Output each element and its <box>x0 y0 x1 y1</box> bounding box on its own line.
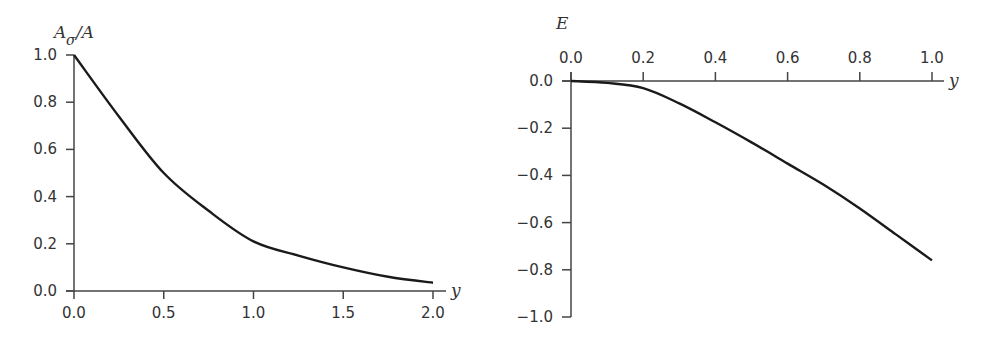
y-tick-label: 0.2 <box>33 235 57 253</box>
y-tick-label: 0.8 <box>33 93 57 111</box>
left-x-axis-title: y <box>450 280 461 300</box>
figure: A σ /A 0.00.20.40.60.81.0 0.00.51.01.52.… <box>0 0 984 346</box>
x-tick-label: 0.0 <box>559 49 583 67</box>
y-tick-label: −0.2 <box>517 119 553 137</box>
y-tick-label: −0.8 <box>517 261 553 279</box>
left-y-ticks: 0.00.20.40.60.81.0 <box>33 46 74 300</box>
x-tick-label: 1.0 <box>920 49 944 67</box>
y-tick-label: 1.0 <box>33 46 57 64</box>
x-tick-label: 2.0 <box>421 304 445 322</box>
y-tick-label: 0.6 <box>33 140 57 158</box>
x-tick-label: 0.8 <box>848 49 872 67</box>
y-title-sub: σ <box>66 32 76 48</box>
y-tick-label: −0.4 <box>517 166 553 184</box>
right-y-axis-title: E <box>555 13 569 33</box>
y-tick-label: −1.0 <box>517 308 553 326</box>
left-x-ticks: 0.00.51.01.52.0 <box>62 291 445 322</box>
right-chart: E 0.0−0.2−0.4−0.6−0.8−1.0 0.00.20.40.60.… <box>517 13 959 326</box>
y-title-main: A <box>52 22 66 42</box>
y-title-tail: /A <box>74 22 94 42</box>
left-y-axis-title: A σ /A <box>52 22 94 48</box>
y-tick-label: 0.0 <box>33 282 57 300</box>
x-tick-label: 1.0 <box>242 304 266 322</box>
x-tick-label: 0.0 <box>62 304 86 322</box>
right-y-ticks: 0.0−0.2−0.4−0.6−0.8−1.0 <box>517 72 571 326</box>
left-chart: A σ /A 0.00.20.40.60.81.0 0.00.51.01.52.… <box>33 22 461 322</box>
y-tick-label: −0.6 <box>517 214 553 232</box>
right-x-axis-title: y <box>948 70 959 90</box>
right-data-curve <box>571 81 932 260</box>
x-tick-label: 1.5 <box>331 304 355 322</box>
x-tick-label: 0.4 <box>703 49 727 67</box>
x-tick-label: 0.6 <box>776 49 800 67</box>
y-tick-label: 0.0 <box>529 72 553 90</box>
left-data-curve <box>74 55 433 283</box>
x-tick-label: 0.5 <box>152 304 176 322</box>
x-tick-label: 0.2 <box>631 49 655 67</box>
right-x-ticks: 0.00.20.40.60.81.0 <box>559 49 944 81</box>
y-tick-label: 0.4 <box>33 188 57 206</box>
